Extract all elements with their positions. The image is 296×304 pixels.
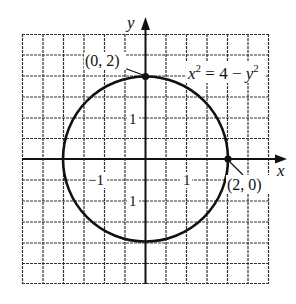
- tick-label-x-neg: −1: [88, 172, 104, 188]
- y-axis-label: y: [125, 13, 135, 32]
- y-axis-arrow-icon: [141, 17, 150, 30]
- point-label-0-2: (0, 2): [85, 52, 120, 70]
- leader-2-0: [230, 162, 243, 175]
- tick-label-x-pos: 1: [183, 172, 191, 188]
- point-2-0: [224, 155, 231, 162]
- tick-label-y-neg: 1: [129, 193, 137, 209]
- leader-0-2: [124, 68, 143, 75]
- point-label-2-0: (2, 0): [227, 176, 262, 194]
- circle-graph: (0, 2) (2, 0) y x 1 −1 1 1 x2 = 4 − y2: [0, 0, 296, 304]
- point-0-2: [142, 73, 149, 80]
- x-axis-label: x: [276, 161, 285, 180]
- tick-label-y-pos: 1: [129, 111, 137, 127]
